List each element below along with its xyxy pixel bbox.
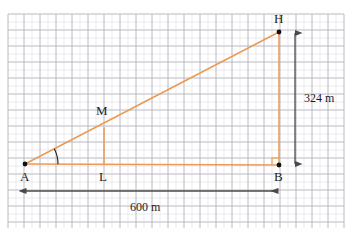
point-label-A: A bbox=[20, 170, 29, 183]
geometry-figure bbox=[0, 0, 351, 238]
base-AB bbox=[25, 164, 279, 165]
point-label-H: H bbox=[274, 12, 283, 25]
point-label-B: B bbox=[274, 170, 283, 183]
base-dimension-label: 600 m bbox=[130, 201, 160, 213]
dimension-lines bbox=[26, 33, 295, 191]
vertex-dot-A bbox=[23, 162, 28, 167]
point-label-L: L bbox=[99, 170, 107, 183]
vertex-dot-H bbox=[277, 30, 282, 35]
point-label-M: M bbox=[96, 104, 108, 117]
diagram-canvas: A B H L M 324 m 600 m bbox=[0, 0, 351, 238]
height-dimension-label: 324 m bbox=[304, 92, 334, 104]
vertex-dot-B bbox=[277, 163, 282, 168]
